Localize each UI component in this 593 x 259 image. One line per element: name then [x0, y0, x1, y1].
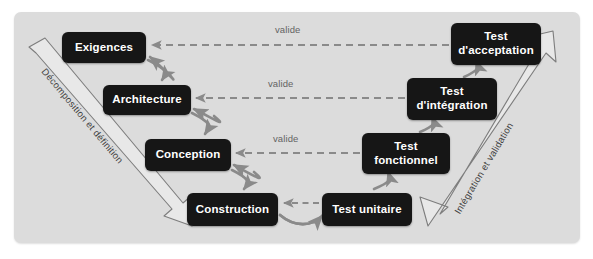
flow-conception-construction	[232, 170, 248, 189]
diagram-canvas: Exigences Architecture Conception Constr…	[0, 0, 593, 259]
valide-label-tier1: valide	[275, 24, 300, 35]
node-construction[interactable]: Construction	[187, 193, 278, 226]
flow-testunitaire-fonctionnel	[374, 172, 390, 189]
return-exigences-from-right	[150, 57, 173, 80]
valide-label-tier3: valide	[273, 133, 298, 144]
node-test-unitaire[interactable]: Test unitaire	[322, 193, 412, 226]
node-architecture[interactable]: Architecture	[103, 85, 191, 115]
feedback-testunitaire-construction	[280, 215, 322, 224]
node-test-fonctionnel[interactable]: Test fonctionnel	[362, 133, 450, 174]
node-test-acceptation[interactable]: Test d'acceptation	[451, 23, 541, 65]
left-band-arrow	[29, 38, 192, 226]
valide-label-tier2: valide	[268, 78, 293, 89]
node-conception[interactable]: Conception	[145, 139, 231, 171]
node-test-integration[interactable]: Test d'intégration	[407, 78, 497, 120]
node-exigences[interactable]: Exigences	[62, 32, 146, 63]
return-conception-from-right	[234, 165, 260, 178]
